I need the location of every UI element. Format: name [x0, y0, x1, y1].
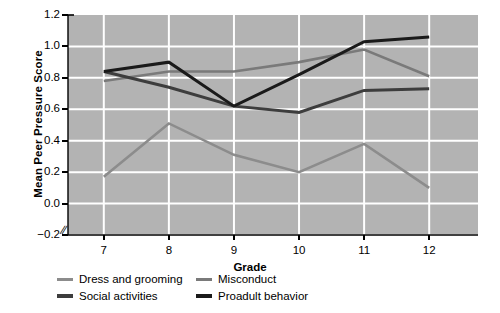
legend-color-swatch — [57, 278, 73, 281]
y-axis-break-icon: ∕∕ — [62, 224, 66, 236]
x-tick-mark — [168, 235, 170, 240]
legend-item-label: Proadult behavior — [218, 290, 308, 302]
legend-item: Proadult behavior — [196, 290, 308, 302]
x-tick-label: 9 — [219, 244, 249, 256]
legend-item: Social activities — [57, 290, 158, 302]
x-tick-label: 12 — [414, 244, 444, 256]
legend-item: Misconduct — [196, 273, 276, 285]
legend-item: Dress and grooming — [57, 273, 183, 285]
x-tick-mark — [298, 235, 300, 240]
legend-item-label: Misconduct — [218, 273, 276, 285]
legend-color-swatch — [196, 294, 212, 298]
x-tick-label: 10 — [284, 244, 314, 256]
x-tick-mark — [103, 235, 105, 240]
x-tick-label: 8 — [154, 244, 184, 256]
x-axis-label: Grade — [0, 261, 500, 273]
legend-item-label: Social activities — [79, 290, 158, 302]
x-tick-mark — [428, 235, 430, 240]
chart-figure: Mean Peer Pressure Score −0.20.00.20.40.… — [0, 0, 500, 313]
x-tick-mark — [363, 235, 365, 240]
legend-color-swatch — [196, 278, 212, 281]
x-tick-mark — [233, 235, 235, 240]
legend-color-swatch — [57, 294, 73, 298]
x-tick-label: 11 — [349, 244, 379, 256]
x-tick-label: 7 — [89, 244, 119, 256]
plot-background — [68, 15, 478, 235]
legend-item-label: Dress and grooming — [79, 273, 183, 285]
